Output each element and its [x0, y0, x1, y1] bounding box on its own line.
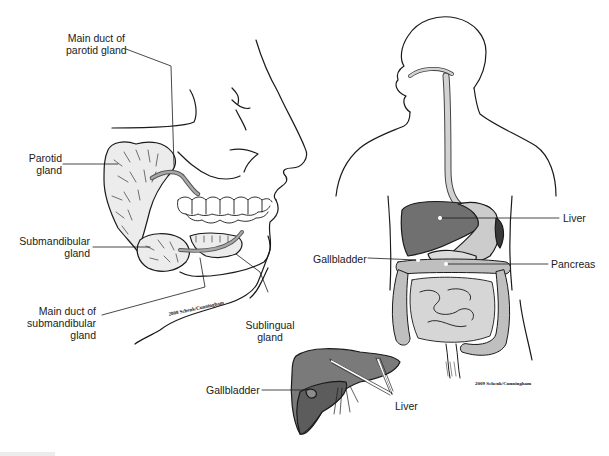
label-line: submandibular	[24, 317, 96, 329]
label-line: gland	[26, 164, 62, 176]
label-main-duct-parotid: Main duct of parotid gland	[66, 32, 127, 56]
left-leader-lines	[63, 49, 268, 315]
label-parotid-gland: Parotid gland	[26, 152, 62, 176]
label-gallbladder-inset: Gallbladder	[206, 384, 260, 396]
label-liver-torso: Liver	[563, 212, 586, 224]
label-line: Parotid	[26, 152, 62, 164]
label-line: Submandibular	[18, 235, 90, 247]
small-intestine	[410, 277, 495, 342]
label-submandibular-gland: Submandibular gland	[18, 235, 90, 259]
label-line: parotid gland	[66, 44, 127, 56]
footer-strip	[0, 452, 55, 456]
label-main-duct-submandibular: Main duct of submandibular gland	[24, 305, 96, 341]
label-line: gland	[244, 331, 296, 343]
label-line: Main duct of	[24, 305, 96, 317]
submandibular-gland	[137, 234, 189, 272]
label-sublingual-gland: Sublingual gland	[244, 319, 296, 343]
label-line: gland	[18, 247, 90, 259]
label-line: Main duct of	[66, 32, 127, 44]
label-gallbladder-torso: Gallbladder	[313, 253, 367, 265]
sublingual-gland	[190, 233, 242, 257]
upper-teeth	[177, 197, 272, 223]
label-pancreas: Pancreas	[551, 258, 595, 270]
label-line: Sublingual	[244, 319, 296, 331]
credit-right: 2009 Schenk/Cunningham	[475, 381, 531, 386]
anatomy-diagram: Main duct of parotid gland Parotid gland…	[0, 0, 609, 456]
label-line: gland	[24, 329, 96, 341]
diagram-svg	[0, 0, 609, 456]
label-liver-inset: Liver	[395, 400, 418, 412]
